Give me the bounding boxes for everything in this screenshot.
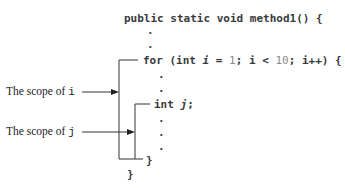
assign-op: = bbox=[209, 54, 229, 67]
scope-j-label: The scope of j bbox=[6, 125, 75, 138]
increment-part: ; i++) { bbox=[289, 54, 342, 67]
ellipsis-dot: . bbox=[158, 126, 165, 139]
scope-i-var: i bbox=[68, 86, 75, 98]
ellipsis-dot: . bbox=[158, 140, 165, 153]
scope-i-label: The scope of i bbox=[6, 85, 75, 98]
ellipsis-dot: . bbox=[158, 68, 165, 81]
for-keyword: for (int bbox=[143, 54, 203, 67]
for-close-brace: } bbox=[146, 154, 153, 167]
declaration-j: int j; bbox=[154, 98, 194, 111]
scope-j-var: j bbox=[68, 126, 75, 138]
method-close-brace: } bbox=[127, 168, 134, 181]
semicolon: ; bbox=[187, 98, 194, 111]
scope-j-arrowhead-icon bbox=[127, 129, 135, 135]
limit-literal: 10 bbox=[275, 54, 288, 67]
ellipsis-dot: . bbox=[158, 82, 165, 95]
scope-j-bracket bbox=[135, 104, 150, 159]
condition-part: ; i < bbox=[236, 54, 276, 67]
ellipsis-dot: . bbox=[147, 24, 154, 37]
scope-i-label-text: The scope of bbox=[6, 85, 68, 97]
int-keyword: int bbox=[154, 98, 181, 111]
scope-i-arrowhead-icon bbox=[111, 89, 119, 95]
ellipsis-dot: . bbox=[147, 38, 154, 51]
for-loop-header: for (int i = 1; i < 10; i++) { bbox=[143, 54, 342, 67]
scope-j-label-text: The scope of bbox=[6, 125, 68, 137]
init-literal: 1 bbox=[229, 54, 236, 67]
ellipsis-dot: . bbox=[158, 112, 165, 125]
method-signature: public static void method1() { bbox=[124, 12, 323, 25]
